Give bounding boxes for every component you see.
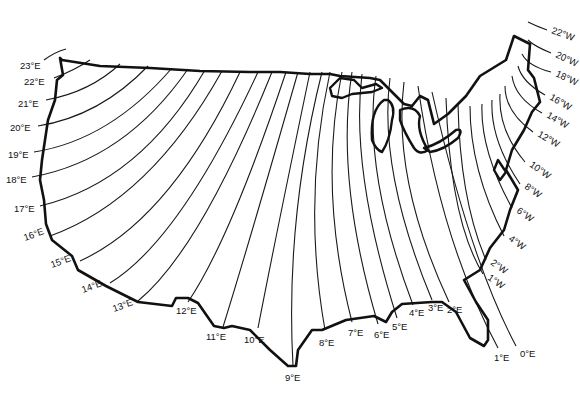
label-20e: 20°E <box>10 122 31 133</box>
isogonic-lines-east <box>32 49 516 366</box>
label-14w: 14°W <box>545 109 571 130</box>
label-18w: 18°W <box>554 68 580 88</box>
label-12w: 12°W <box>536 128 562 149</box>
label-16e: 16°E <box>22 225 45 242</box>
label-15e: 15°E <box>49 252 72 269</box>
label-8e: 8°E <box>319 337 334 348</box>
label-13e: 13°E <box>111 296 134 313</box>
label-1e: 1°E <box>494 352 509 363</box>
declination-map: 23°E 22°E 21°E 20°E 19°E 18°E 17°E 16°E … <box>0 0 580 394</box>
lake-erie <box>424 130 461 152</box>
lake-huron <box>400 108 428 153</box>
label-3e: 3°E <box>428 302 443 313</box>
label-6e: 6°E <box>374 329 389 340</box>
label-14e: 14°E <box>80 277 103 294</box>
label-2e: 2°E <box>447 304 462 315</box>
label-19e: 19°E <box>8 149 29 160</box>
label-18e: 18°E <box>6 174 27 185</box>
east-declination-labels: 23°E 22°E 21°E 20°E 19°E 18°E 17°E 16°E … <box>6 60 535 383</box>
label-21e: 21°E <box>18 98 39 109</box>
lake-michigan <box>372 100 394 152</box>
label-12e: 12°E <box>176 305 197 316</box>
label-11e: 11°E <box>206 331 226 342</box>
label-9e: 9°E <box>285 372 300 383</box>
label-10e: 10°E <box>244 334 265 345</box>
label-17e: 17°E <box>14 203 35 214</box>
label-20w: 20°W <box>554 49 580 69</box>
label-22e: 22°E <box>24 76 45 87</box>
great-lakes <box>330 78 506 180</box>
label-6w: 6°W <box>515 205 536 224</box>
label-5e: 5°E <box>392 321 407 332</box>
chesapeake <box>494 160 506 180</box>
label-22w: 22°W <box>550 25 576 43</box>
label-10w: 10°W <box>528 159 553 181</box>
label-4w: 4°W <box>507 233 528 252</box>
label-23e: 23°E <box>20 60 41 71</box>
label-0e: 0°E <box>520 348 535 359</box>
label-7e: 7°E <box>348 327 363 338</box>
label-4e: 4°E <box>409 307 424 318</box>
label-8w: 8°W <box>523 181 544 200</box>
